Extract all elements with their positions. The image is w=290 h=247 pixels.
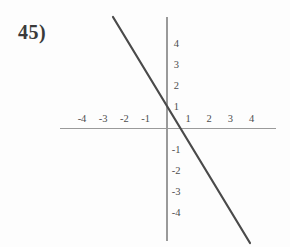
graph-figure: 45) -4-3-2-112344321-1-2-3-4 [0, 0, 290, 247]
plotted-line-layer [0, 0, 290, 247]
plotted-line [113, 17, 250, 243]
coordinate-plane: -4-3-2-112344321-1-2-3-4 [0, 0, 290, 247]
